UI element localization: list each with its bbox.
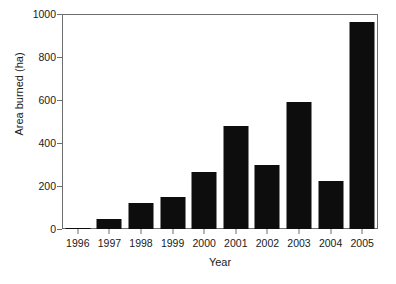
chart-figure: 02004006008001000 1996199719981999200020… [0,0,396,284]
x-axis-tick-mark [172,229,173,234]
x-axis-tick-label: 1999 [161,238,184,249]
x-axis-tick-mark [362,229,363,234]
y-axis-tick-label: 600 [38,95,56,106]
x-axis-tick-mark [330,229,331,234]
x-axis-tick-mark [204,229,205,234]
bar [287,102,312,229]
x-axis-tick-mark [235,229,236,234]
x-axis-tick-label: 1998 [129,238,152,249]
y-axis-tick-label: 400 [38,138,56,149]
y-axis-title: Area burned (ha) [13,29,25,159]
bar-series [62,14,378,229]
x-axis-tick-label: 2004 [319,238,342,249]
bar [350,22,375,229]
bar [160,197,185,229]
y-axis-tick-label: 800 [38,52,56,63]
y-axis-tick-mark [57,229,62,230]
x-axis-tick-mark [299,229,300,234]
y-axis-tick-label: 200 [38,181,56,192]
bar [192,172,217,229]
x-axis-tick-mark [267,229,268,234]
y-axis-tick-label: 0 [50,224,56,235]
bar [129,203,154,229]
bar [97,219,122,229]
x-axis-tick-label: 2005 [351,238,374,249]
x-axis-tick-label: 2001 [224,238,247,249]
x-axis-tick-label: 1996 [66,238,89,249]
x-axis-tick-mark [77,229,78,234]
x-axis-tick-label: 2000 [193,238,216,249]
bar [255,165,280,230]
x-axis-tick-label: 2003 [287,238,310,249]
y-axis-tick-label: 1000 [33,9,56,20]
bar [318,181,343,229]
x-axis-tick-mark [109,229,110,234]
x-axis-tick-label: 1997 [98,238,121,249]
x-axis-tick-label: 2002 [256,238,279,249]
bar [223,126,248,229]
x-axis-tick-mark [141,229,142,234]
x-axis-title: Year [62,256,378,268]
